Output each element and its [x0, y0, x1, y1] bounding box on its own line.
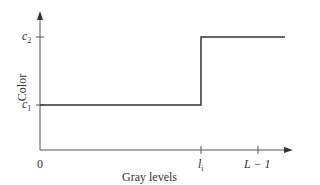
tick-label-c2-sub: 2 — [27, 36, 31, 45]
x-axis-label: Gray levels — [122, 171, 177, 183]
tick-label-c1: c1 — [22, 98, 31, 115]
tick-label-li: li — [198, 158, 204, 175]
tick-label-c2: c2 — [22, 30, 31, 47]
tick-label-c1-sub: 1 — [27, 104, 31, 113]
x-axis-arrow-icon — [284, 147, 293, 153]
tick-label-origin: 0 — [37, 158, 43, 170]
y-axis-arrow-icon — [37, 11, 43, 20]
tick-label-li-sub: i — [201, 164, 203, 173]
step-function-line — [40, 37, 285, 105]
tick-label-lmax: L − 1 — [244, 158, 271, 170]
